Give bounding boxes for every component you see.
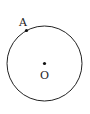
center-o-label: O xyxy=(40,69,49,82)
circle-diagram: A O xyxy=(0,0,90,114)
center-o-dot xyxy=(43,62,46,65)
point-a-label: A xyxy=(18,16,28,29)
point-a-dot xyxy=(25,29,28,32)
